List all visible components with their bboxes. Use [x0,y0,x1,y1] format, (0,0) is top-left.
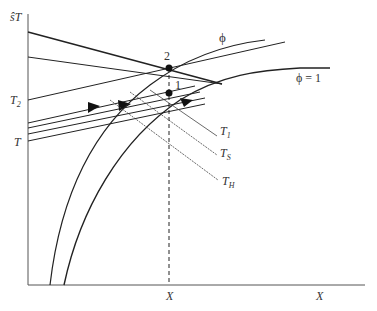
diagram-canvas: ŝT X X T2 T T1 TS TH 2 1 ϕ ϕ = 1 [0,0,377,311]
phi-eq-1-label: ϕ = 1 [296,71,321,85]
point-2-label: 2 [164,49,170,63]
svg-text:T2: T2 [10,93,21,109]
isotherm-label-th: TH [222,174,236,190]
y-tick-t2: T2 [10,93,21,109]
operating-line-upper [28,57,222,84]
x-tick-label: X [165,289,174,303]
t2-line [28,42,285,100]
operating-line-top [28,32,222,84]
point-1-label: 1 [175,78,181,92]
point-2 [166,65,173,72]
x-axis-label: X [315,289,324,303]
y-axis-label: ŝT [10,10,23,24]
isotherm-label-t1: T1 [220,124,231,140]
isotherm-ts [130,92,217,155]
svg-text:T1: T1 [220,124,231,140]
point-1 [166,90,173,97]
y-tick-t: T [14,135,22,149]
svg-text:TS: TS [220,146,231,162]
phi-eq-1-curve [64,68,330,285]
svg-text:TH: TH [222,174,236,190]
isotherm-label-ts: TS [220,146,231,162]
svg-text:T: T [14,135,22,149]
phi-curve-label: ϕ [219,30,226,45]
